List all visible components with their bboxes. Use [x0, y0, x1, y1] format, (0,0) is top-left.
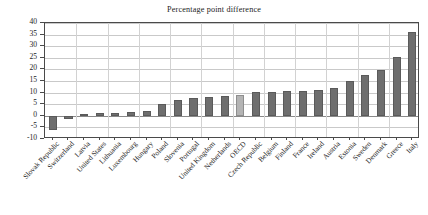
bar-oecd — [236, 95, 244, 116]
chart-title: Percentage point difference — [0, 5, 428, 14]
y-tick-label: 0 — [33, 111, 37, 119]
y-tick-label: 15 — [29, 76, 37, 84]
plot-area — [44, 22, 419, 138]
bar-latvia — [80, 114, 88, 116]
bar-belgium — [268, 92, 276, 116]
bar-hungary — [143, 111, 151, 116]
bar-finland — [283, 91, 291, 115]
bar-netherlands — [221, 96, 229, 116]
bars-layer — [45, 23, 418, 137]
bar-portugal — [189, 98, 197, 116]
bar-denmark — [377, 70, 385, 115]
bar-estonia — [346, 81, 354, 116]
bar-france — [299, 91, 307, 116]
bar-slovenia — [174, 100, 182, 115]
bar-ireland — [314, 90, 322, 116]
bar-united-kingdom — [205, 97, 213, 116]
bar-greece — [393, 57, 401, 116]
bar-luxembourg — [127, 112, 135, 116]
bar-czech-republic — [252, 92, 260, 116]
chart-container: Percentage point difference -10-50510152… — [0, 0, 428, 215]
bar-switzerland — [64, 116, 72, 119]
bar-slovak-republic — [49, 116, 57, 130]
y-tick-label: 25 — [29, 53, 37, 61]
y-tick-label: 35 — [29, 30, 37, 38]
y-tick-label: 30 — [29, 41, 37, 49]
y-tick-label: -5 — [31, 123, 37, 131]
y-tick-label: 20 — [29, 65, 37, 73]
y-tick-label: -10 — [27, 134, 37, 142]
bar-sweden — [361, 75, 369, 116]
x-tick-label-italy: Italy — [405, 140, 419, 155]
bar-united-states — [96, 113, 104, 115]
y-tick-label: 5 — [33, 99, 37, 107]
bar-austria — [330, 88, 338, 116]
y-tick-label: 10 — [29, 88, 37, 96]
y-tick-label: 40 — [29, 18, 37, 26]
x-axis-labels: Slovak RepublicSwitzerlandLatviaUnited S… — [44, 138, 419, 215]
bar-poland — [158, 104, 166, 116]
bar-lithuania — [111, 113, 119, 116]
x-tick-label-greece: Greece — [384, 140, 403, 160]
bar-italy — [408, 32, 416, 116]
y-axis: -10-50510152025303540 — [0, 22, 44, 138]
